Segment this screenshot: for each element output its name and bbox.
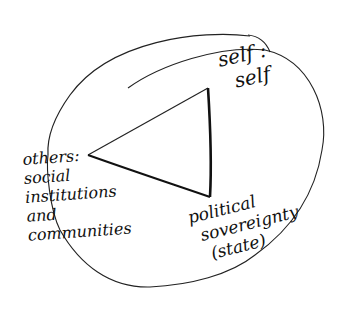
triangle-edge-self-state (208, 88, 211, 197)
label-others: others: social institutions and communit… (22, 145, 132, 244)
triangle-edge-others-self (88, 88, 208, 155)
label-self: self : self (216, 40, 273, 93)
